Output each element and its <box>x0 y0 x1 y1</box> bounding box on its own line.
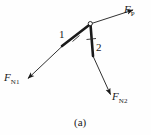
force-label-fn1: FN1 <box>4 72 20 86</box>
force-diagram-canvas <box>0 0 151 135</box>
tick-mark-member-2 <box>87 39 97 40</box>
member-bar-1 <box>62 24 91 46</box>
figure-caption: (a) <box>74 117 86 128</box>
force-symbol-fn1: F <box>4 71 11 83</box>
member-bar-2 <box>91 25 94 57</box>
member-label-1: 1 <box>59 29 65 40</box>
force-label-fn2: FN2 <box>112 91 128 105</box>
member-label-2: 2 <box>96 42 102 53</box>
force-label-fp: FP <box>124 4 135 18</box>
force-subscript-fn2: N2 <box>119 97 128 105</box>
force-symbol-fn2: F <box>112 90 119 102</box>
force-arrow-fn1 <box>28 45 64 79</box>
force-subscript-fp: P <box>131 10 135 18</box>
force-diagram-figure: FP FN1 FN2 1 2 (a) <box>0 0 151 135</box>
force-arrow-fn2 <box>93 56 111 95</box>
pivot-joint-icon <box>88 22 92 26</box>
force-subscript-fn1: N1 <box>11 78 20 86</box>
force-symbol-fp: F <box>124 3 131 15</box>
